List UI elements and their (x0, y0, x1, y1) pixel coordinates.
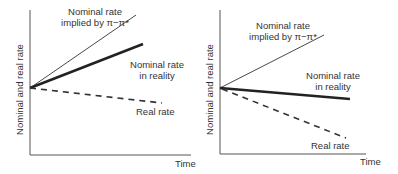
right-reality-label-line2: in reality (298, 81, 368, 92)
right-reality-label-line1: Nominal rate (298, 70, 368, 81)
right-x-axis-label: Time (360, 156, 381, 167)
right-real-label: Real rate (311, 140, 350, 151)
left-x-axis-label: Time (175, 158, 196, 169)
left-implied-label-line2: implied by π−π* (50, 17, 140, 28)
left-real-label: Real rate (136, 106, 175, 117)
left-reality-label: Nominal rate in reality (122, 59, 192, 81)
left-chart (30, 10, 191, 155)
left-y-axis-label: Nominal and real rate (14, 35, 25, 145)
right-y-axis-label: Nominal and real rate (204, 35, 215, 145)
left-reality-label-line2: in reality (122, 70, 192, 81)
right-implied-label-line2: implied by π−π* (238, 31, 328, 42)
left-implied-label-line1: Nominal rate (50, 6, 140, 17)
left-implied-label: Nominal rate implied by π−π* (50, 6, 140, 28)
right-implied-label: Nominal rate implied by π−π* (238, 20, 328, 42)
left-reality-label-line1: Nominal rate (122, 59, 192, 70)
right-implied-label-line1: Nominal rate (238, 20, 328, 31)
left-real-line (30, 88, 162, 103)
right-reality-label: Nominal rate in reality (298, 70, 368, 92)
